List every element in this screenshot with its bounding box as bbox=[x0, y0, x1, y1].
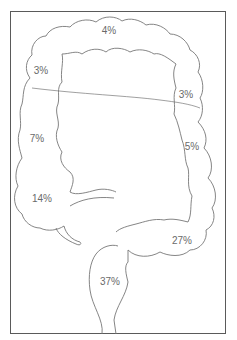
segment-label-descending: 5% bbox=[185, 141, 199, 152]
segment-label-cecum: 14% bbox=[32, 193, 52, 204]
segment-label-ascending: 7% bbox=[30, 133, 44, 144]
segment-label-hepatic-flexure: 3% bbox=[34, 65, 48, 76]
colon-inner-contour bbox=[56, 82, 116, 194]
colon-outer-contour bbox=[26, 17, 215, 334]
appendix bbox=[56, 226, 81, 245]
segment-label-splenic-flexure: 3% bbox=[179, 89, 193, 100]
segment-label-transverse: 4% bbox=[102, 25, 116, 36]
segment-label-sigmoid: 27% bbox=[172, 235, 192, 246]
terminal-ileum bbox=[70, 197, 114, 206]
segment-label-rectum: 37% bbox=[100, 276, 120, 287]
colon-outline-drawing bbox=[0, 0, 237, 340]
cecum-contour bbox=[15, 78, 64, 230]
transverse-inner-contour bbox=[61, 48, 192, 232]
